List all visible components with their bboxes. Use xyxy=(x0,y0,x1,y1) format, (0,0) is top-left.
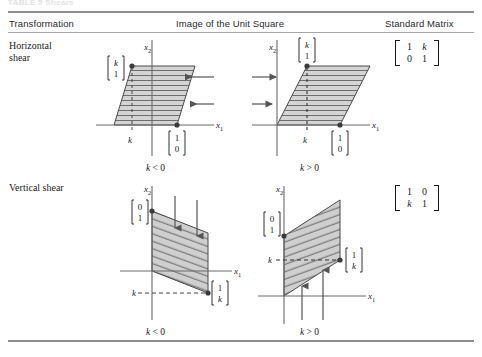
vertex-point-top xyxy=(281,233,286,238)
svg-text:1: 1 xyxy=(218,283,223,293)
vector-label-1-k: 1 k xyxy=(212,281,228,305)
vertex-point-top xyxy=(149,208,154,213)
y-axis-label: x2 xyxy=(268,42,276,54)
matrix-h-r1c2: k xyxy=(417,41,432,53)
caption-variable: k xyxy=(300,327,304,337)
vector-label-1-0: 1 0 xyxy=(332,131,348,155)
svg-text:1: 1 xyxy=(352,250,357,260)
x-axis-label: x1 xyxy=(233,266,241,278)
table-rule-top xyxy=(8,11,474,13)
vertex-point-top xyxy=(129,63,134,68)
figure-horizontal-shear-k-positive: x2 x1 k k 1 1 0 xyxy=(252,36,382,161)
row-label-horizontal-shear-line1: Horizontal xyxy=(9,40,52,52)
matrix-v-r2c1: k xyxy=(402,198,417,210)
caption-relation: > 0 xyxy=(307,163,319,173)
table-rule-header xyxy=(8,32,474,33)
table-caption-ghost: TABLE 5 Shears xyxy=(8,0,74,7)
header-transformation: Transformation xyxy=(9,18,74,29)
y-axis-label: x2 xyxy=(143,42,151,54)
vertex-point-bottom xyxy=(337,122,342,127)
row-label-horizontal-shear: Horizontal shear xyxy=(9,40,52,64)
standard-matrix-horizontal-shear: 1 k 0 1 xyxy=(395,40,439,68)
matrix-h-r2c1: 0 xyxy=(402,53,417,65)
vector-label-0-1: 0 1 xyxy=(264,212,280,236)
row-label-vertical-shear: Vertical shear xyxy=(9,182,64,194)
table-rule-bottom xyxy=(8,340,474,342)
svg-text:0: 0 xyxy=(338,144,343,154)
figure-vertical-shear-k-positive: x2 x1 k 0 1 1 k xyxy=(258,178,398,328)
svg-text:0: 0 xyxy=(270,214,275,224)
figure-caption-vertical-k-negative: k < 0 xyxy=(146,327,165,337)
tick-label-k: k xyxy=(268,255,273,265)
caption-relation: < 0 xyxy=(153,163,165,173)
caption-relation: > 0 xyxy=(307,327,319,337)
svg-text:0: 0 xyxy=(175,144,180,154)
svg-text:k: k xyxy=(114,58,119,68)
sheared-unit-square xyxy=(152,211,208,293)
table-page: TABLE 5 Shears Transformation Image of t… xyxy=(0,0,482,357)
matrix-brackets: 1 0 k 1 xyxy=(395,185,439,211)
tick-label-k: k xyxy=(303,135,308,145)
matrix-v-r1c1: 1 xyxy=(402,186,417,198)
vector-label-1-k: 1 k xyxy=(346,248,362,272)
matrix-brackets: 1 k 0 1 xyxy=(395,40,439,66)
vertex-point-top xyxy=(304,63,309,68)
figure-caption-horizontal-k-negative: k < 0 xyxy=(146,163,165,173)
vector-label-0-1: 0 1 xyxy=(132,200,148,224)
caption-variable: k xyxy=(146,163,150,173)
caption-variable: k xyxy=(146,327,150,337)
sheared-unit-square xyxy=(284,200,340,296)
svg-text:1: 1 xyxy=(270,225,275,235)
vertex-point-bottom xyxy=(205,290,210,295)
standard-matrix-vertical-shear: 1 0 k 1 xyxy=(395,185,439,213)
svg-text:0: 0 xyxy=(138,202,143,212)
vector-label-k-1: k 1 xyxy=(299,38,315,62)
matrix-h-r2c2: 1 xyxy=(417,53,432,65)
sheared-unit-square xyxy=(114,66,195,125)
vertex-point-bottom xyxy=(174,122,179,127)
matrix-v-r2c2: 1 xyxy=(417,198,432,210)
svg-text:1: 1 xyxy=(305,51,310,61)
x-axis-label: x1 xyxy=(215,120,223,132)
caption-variable: k xyxy=(300,163,304,173)
svg-text:1: 1 xyxy=(138,213,143,223)
y-axis-label: x2 xyxy=(143,184,151,196)
figure-caption-vertical-k-positive: k > 0 xyxy=(300,327,319,337)
svg-text:1: 1 xyxy=(175,133,180,143)
caption-relation: < 0 xyxy=(153,327,165,337)
vector-label-1-0: 1 0 xyxy=(169,131,185,155)
figure-vertical-shear-k-negative: x2 x1 k 0 1 1 k xyxy=(120,178,260,328)
figure-caption-horizontal-k-positive: k > 0 xyxy=(300,163,319,173)
row-label-vertical-shear-line1: Vertical shear xyxy=(9,182,64,194)
row-label-horizontal-shear-line2: shear xyxy=(9,52,52,64)
svg-text:1: 1 xyxy=(114,69,119,79)
x-axis-label: x1 xyxy=(367,291,375,303)
figure-horizontal-shear-k-negative: x2 x1 k k 1 1 0 xyxy=(96,36,226,161)
matrix-v-r1c2: 0 xyxy=(417,186,432,198)
svg-text:k: k xyxy=(218,294,223,304)
y-axis-label: x2 xyxy=(275,184,283,196)
svg-text:k: k xyxy=(352,261,357,271)
svg-text:k: k xyxy=(305,40,310,50)
x-axis-label: x1 xyxy=(371,120,379,132)
svg-text:1: 1 xyxy=(338,133,343,143)
header-image-of-unit-square: Image of the Unit Square xyxy=(176,18,284,29)
vector-label-k-1: k 1 xyxy=(108,56,124,80)
matrix-h-r1c1: 1 xyxy=(402,41,417,53)
tick-label-k: k xyxy=(128,135,133,145)
sheared-unit-square xyxy=(277,66,370,125)
tick-label-k: k xyxy=(132,288,137,298)
header-standard-matrix: Standard Matrix xyxy=(385,18,454,29)
vertex-point-bottom xyxy=(337,257,342,262)
